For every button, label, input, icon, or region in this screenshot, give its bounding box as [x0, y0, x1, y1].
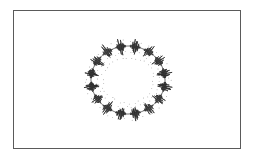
dotted-inner-rings: [85, 40, 172, 121]
figure-canvas: [0, 0, 253, 157]
circular-waveform-ring: [0, 0, 253, 157]
waveform-bursts: [84, 39, 172, 121]
